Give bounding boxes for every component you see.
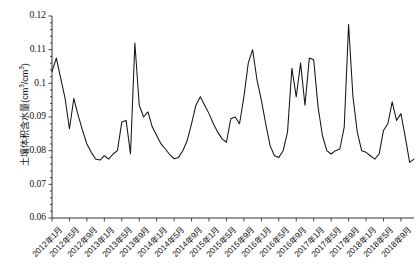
y-axis-ticks <box>49 16 53 218</box>
y-axis-title-sup1: 3 <box>18 84 25 88</box>
y-tick-label: 0.09 <box>29 111 46 121</box>
y-axis-title-sup2: 3 <box>18 66 25 70</box>
y-tick-label: 0.12 <box>29 10 46 20</box>
y-tick-label: 0.07 <box>29 179 46 189</box>
chart-canvas: 0.060.070.080.090.10.110.12 <box>0 0 418 278</box>
y-axis-title-middle: /cm <box>20 70 30 85</box>
y-axis-tick-labels: 0.060.070.080.090.10.110.12 <box>29 10 46 222</box>
y-axis-title-suffix: ) <box>20 63 30 66</box>
soil-moisture-line-chart: 0.060.070.080.090.10.110.12 土壤体积含水量(cm3/… <box>0 0 418 278</box>
y-tick-label: 0.08 <box>29 145 46 155</box>
y-axis-title-prefix: 土壤体积含水量(cm <box>20 88 30 166</box>
y-tick-label: 0.11 <box>30 44 47 54</box>
y-tick-label: 0.06 <box>29 212 46 222</box>
y-tick-label: 0.1 <box>34 78 46 88</box>
y-axis-title: 土壤体积含水量(cm3/cm3) <box>18 30 31 200</box>
data-series-line <box>52 24 414 162</box>
x-axis-ticks <box>52 218 401 222</box>
